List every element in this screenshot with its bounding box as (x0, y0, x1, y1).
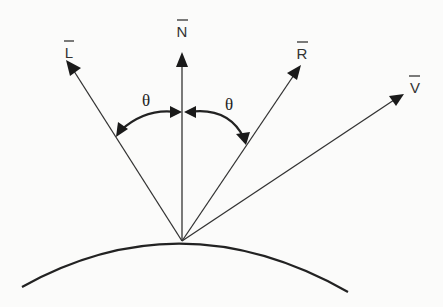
vector-v (182, 94, 404, 241)
svg-text:V: V (410, 79, 420, 96)
theta-label-left: θ (142, 91, 150, 110)
label-n: N (177, 20, 188, 40)
angle-arc-left (116, 106, 182, 137)
theta-label-right: θ (225, 95, 233, 114)
vector-r (182, 65, 301, 241)
label-l: L (64, 41, 74, 61)
vector-n (176, 52, 188, 241)
arrowhead-icon (66, 60, 81, 76)
arrowhead-icon (287, 65, 301, 80)
arrowhead-icon (176, 52, 188, 67)
vector-l (66, 60, 182, 241)
svg-text:N: N (177, 23, 188, 40)
surface-curve (22, 244, 348, 292)
label-r: R (297, 42, 308, 62)
angle-arc-right (184, 106, 250, 145)
label-v: V (409, 76, 420, 96)
reflection-diagram: L N R V θ θ (0, 0, 443, 307)
arrowhead-icon (389, 94, 404, 106)
svg-text:L: L (65, 44, 73, 61)
svg-text:R: R (297, 45, 308, 62)
